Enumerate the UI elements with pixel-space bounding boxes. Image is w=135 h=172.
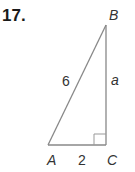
vertex-label-a: A xyxy=(46,152,56,168)
side-label-bc: a xyxy=(111,72,119,88)
side-ab xyxy=(48,25,106,145)
side-label-ac: 2 xyxy=(78,152,86,168)
right-angle-marker xyxy=(94,134,106,145)
right-triangle-diagram: B A C 6 a 2 xyxy=(0,0,135,172)
side-label-hypotenuse: 6 xyxy=(62,73,70,89)
triangle xyxy=(48,25,106,145)
vertex-label-b: B xyxy=(109,7,118,23)
vertex-label-c: C xyxy=(107,152,118,168)
